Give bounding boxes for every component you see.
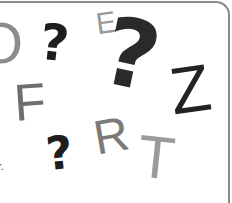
glyph-f: F bbox=[12, 75, 47, 129]
glyph-question-mark-2: ? bbox=[44, 129, 75, 178]
glyph-o-partial: O bbox=[0, 14, 23, 72]
glyph-t: T bbox=[135, 126, 178, 190]
letters-illustration: O ? E ? F Z ? R T r. bbox=[0, 0, 232, 203]
glyph-question-mark-1: ? bbox=[37, 17, 71, 70]
caption-fragment: r. bbox=[0, 160, 4, 172]
